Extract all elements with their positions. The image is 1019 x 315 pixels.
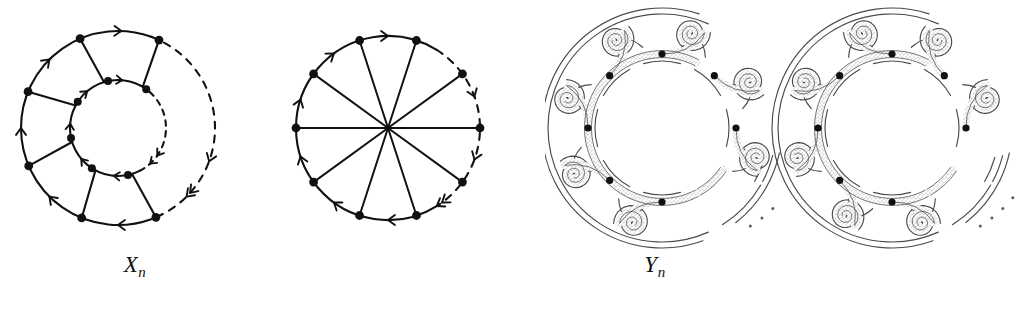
xn-graph-group — [16, 26, 216, 230]
figure-root: Xn Yn Xn — [0, 0, 1019, 315]
xn-graph-drawing — [0, 0, 270, 250]
xn-ribbon-group — [545, 8, 780, 248]
yn-ribbon-drawing — [765, 0, 1019, 250]
caption-xn-graph-sub: n — [138, 264, 146, 280]
panel-xn-graph: Xn — [0, 0, 270, 315]
panel-yn-graph: Yn — [265, 0, 515, 315]
panel-yn-ribbon: Yn — [765, 0, 1019, 315]
caption-xn-graph-base: X — [124, 252, 139, 277]
xn-ribbon-drawing — [545, 0, 780, 250]
yn-graph-group — [292, 31, 485, 225]
yn-graph-drawing — [265, 0, 515, 250]
panel-xn-ribbon: Xn — [545, 0, 780, 315]
caption-xn-graph: Xn — [0, 252, 270, 278]
yn-ribbon-group — [772, 8, 1014, 248]
